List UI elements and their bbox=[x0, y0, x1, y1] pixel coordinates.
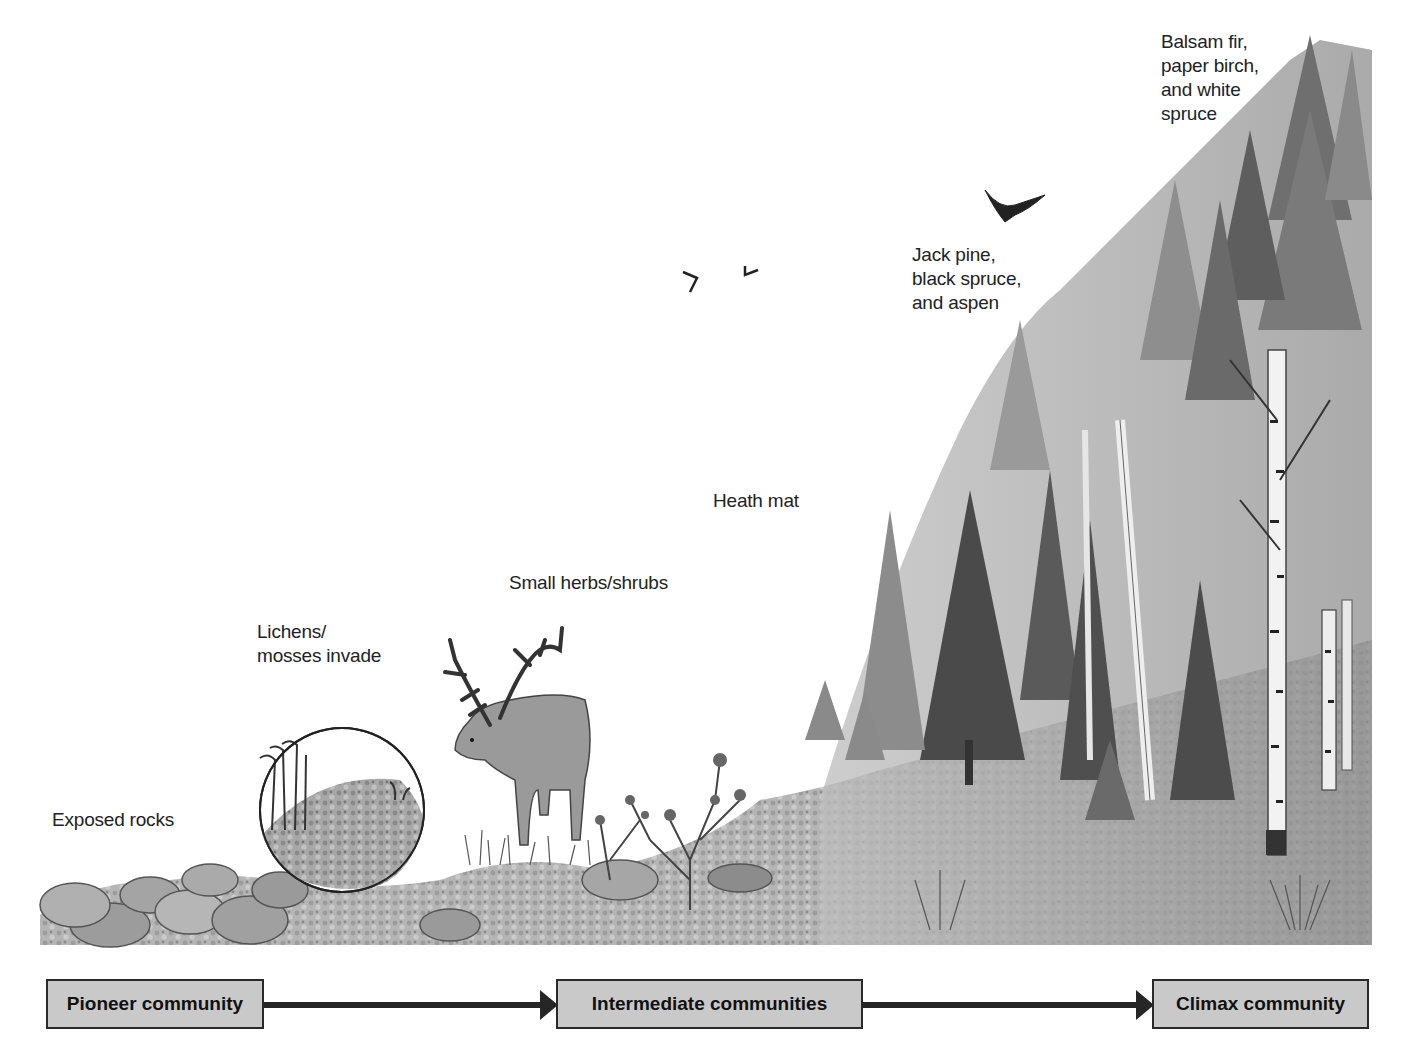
lichens-mosses-label: Lichens/ mosses invade bbox=[257, 620, 381, 668]
moss-magnifier-circle-icon bbox=[260, 728, 424, 892]
arrow-intermediate-to-climax bbox=[863, 1002, 1143, 1008]
balsam-fir-label: Balsam fir, paper birch, and white spruc… bbox=[1161, 30, 1259, 126]
heath-mat-label: Heath mat bbox=[713, 489, 799, 513]
jack-pine-label: Jack pine, black spruce, and aspen bbox=[912, 243, 1021, 315]
succession-illustration bbox=[0, 0, 1404, 960]
stage-climax-community: Climax community bbox=[1152, 979, 1369, 1029]
exposed-rocks-label: Exposed rocks bbox=[52, 808, 174, 832]
stage-intermediate-communities: Intermediate communities bbox=[556, 979, 863, 1029]
arrow-pioneer-to-intermediate bbox=[264, 1002, 546, 1008]
caribou-icon bbox=[445, 628, 590, 845]
stage-pioneer-community: Pioneer community bbox=[46, 979, 264, 1029]
small-herbs-shrubs-label: Small herbs/shrubs bbox=[509, 571, 668, 595]
